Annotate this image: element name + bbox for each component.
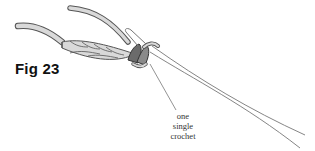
annotation-line-3: crochet bbox=[160, 131, 206, 141]
annotation-line-2: single bbox=[160, 121, 206, 131]
annotation-line-1: one bbox=[160, 111, 206, 121]
yarn-tail bbox=[18, 26, 62, 42]
crochet-hook bbox=[125, 29, 305, 148]
annotation-leader-line bbox=[150, 64, 176, 110]
foundation-chain bbox=[62, 41, 135, 60]
figure-canvas: Fig 23 one single crochet bbox=[0, 0, 315, 151]
figure-label: Fig 23 bbox=[15, 60, 60, 77]
stitch-annotation: one single crochet bbox=[160, 111, 206, 141]
working-yarn bbox=[70, 8, 128, 42]
